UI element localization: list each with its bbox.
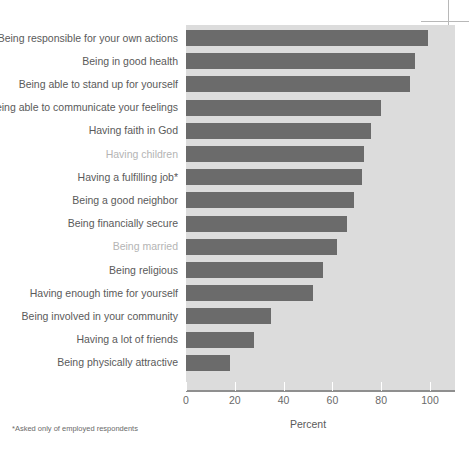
bar [186, 169, 362, 185]
category-label: Having enough time for yourself [30, 282, 178, 305]
plot-area-extension [430, 25, 455, 390]
bar [186, 355, 230, 371]
category-label: Having a fulfilling job* [78, 166, 178, 189]
category-label: Being responsible for your own actions [0, 27, 178, 50]
category-label: Being married [113, 235, 178, 258]
bar-chart: Being responsible for your own actionsBe… [0, 0, 469, 460]
bar [186, 285, 313, 301]
x-axis-tick-label: 100 [421, 394, 439, 406]
x-axis-tick [381, 382, 382, 391]
bar [186, 146, 364, 162]
bar [186, 216, 347, 232]
category-label: Being in good health [82, 50, 178, 73]
x-axis-tick [235, 382, 236, 391]
bar [186, 76, 410, 92]
crop-mark-horizontal-line [421, 21, 469, 22]
bar-row [186, 282, 430, 305]
x-axis-tick [284, 382, 285, 391]
bar-row [186, 50, 430, 73]
bar-row [186, 259, 430, 282]
x-axis-tick [332, 382, 333, 391]
bar-row [186, 328, 430, 351]
x-axis-tick-label: 40 [278, 394, 290, 406]
x-axis-title: Percent [186, 418, 430, 430]
bar-row [186, 73, 430, 96]
bar [186, 30, 428, 46]
category-label: Having a lot of friends [76, 328, 178, 351]
x-axis-tick-label: 0 [183, 394, 189, 406]
bar-row [186, 143, 430, 166]
x-axis-tick [430, 382, 431, 391]
bar [186, 262, 323, 278]
bar [186, 53, 415, 69]
bars-layer [186, 25, 430, 390]
bar [186, 100, 381, 116]
x-axis-tick [186, 382, 187, 391]
bar-row [186, 166, 430, 189]
category-label: Being financially secure [68, 212, 178, 235]
category-label: Being able to communicate your feelings [0, 96, 178, 119]
category-label: Being a good neighbor [72, 189, 178, 212]
bar-row [186, 96, 430, 119]
bar [186, 332, 254, 348]
bar [186, 239, 337, 255]
x-axis-tick-label: 20 [229, 394, 241, 406]
bar-row [186, 351, 430, 374]
category-label: Having faith in God [89, 119, 178, 142]
bar [186, 308, 271, 324]
category-label: Being able to stand up for yourself [19, 73, 178, 96]
category-label: Being religious [109, 259, 178, 282]
bar-row [186, 235, 430, 258]
category-label: Being involved in your community [22, 305, 178, 328]
bar-row [186, 27, 430, 50]
category-label: Having children [106, 143, 178, 166]
x-axis-tick-label: 80 [375, 394, 387, 406]
category-label: Being physically attractive [57, 351, 178, 374]
bar-row [186, 119, 430, 142]
bar-row [186, 212, 430, 235]
bar [186, 192, 354, 208]
x-axis-line [186, 390, 455, 392]
bar [186, 123, 371, 139]
plot-area [186, 25, 430, 390]
category-label-list: Being responsible for your own actionsBe… [0, 25, 182, 390]
chart-footnote: *Asked only of employed respondents [12, 424, 138, 433]
x-axis-tick-label: 60 [327, 394, 339, 406]
bar-row [186, 305, 430, 328]
bar-row [186, 189, 430, 212]
